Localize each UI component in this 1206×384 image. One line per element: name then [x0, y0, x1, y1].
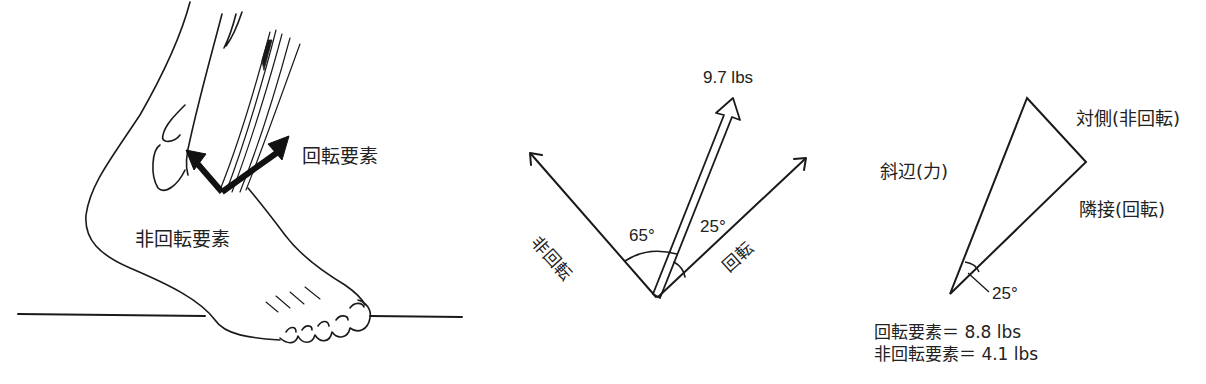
triangle-angle-arc: [965, 262, 979, 272]
foot-illustration: [0, 0, 470, 384]
angle-65-label: 65°: [629, 226, 655, 246]
adjacent-side-label: 隣接(回転): [1079, 195, 1165, 221]
angle-arc-65: [625, 251, 677, 261]
triangle-angle-label: 25°: [992, 284, 1018, 304]
right-triangle: [950, 98, 1086, 294]
foot-dorsum: [248, 188, 365, 305]
nonrotary-component-label: 非回転要素: [135, 224, 230, 251]
rotary-component-label: 回転要素: [302, 141, 378, 168]
malleolus: [153, 105, 185, 190]
ground-line: [18, 314, 462, 317]
force-magnitude-label: 9.7 lbs: [703, 68, 753, 88]
hypotenuse-label: 斜辺(力): [880, 157, 948, 183]
rotary-axis-label: 回転: [716, 235, 758, 276]
nonrotary-arrow: [196, 162, 222, 192]
nonrotary-axis-label: 非回転: [526, 230, 579, 285]
rotary-axis-arrowhead: [794, 158, 806, 170]
nonrotary-axis-arrowhead: [530, 153, 542, 165]
nonrotary-result: 非回転要素＝ 4.1 lbs: [874, 340, 1038, 365]
opposite-side-label: 対側(非回転): [1076, 104, 1180, 130]
angle-leader-line: [968, 273, 989, 292]
angle-arc-25: [674, 262, 685, 277]
angle-25-label: 25°: [700, 217, 726, 237]
rotary-arrow: [222, 152, 278, 192]
component-arrows: [186, 136, 289, 192]
